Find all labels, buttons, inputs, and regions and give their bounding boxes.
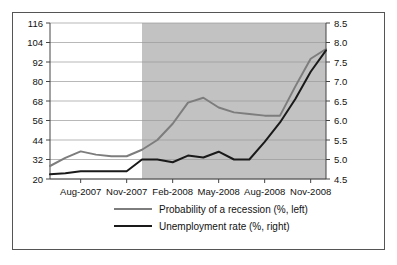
- x-axis-tick-labels: Aug-2007Nov-2007Feb-2008May-2008Aug-2008…: [60, 186, 331, 197]
- left-tick-label: 80: [32, 76, 43, 87]
- left-tick-label: 44: [32, 135, 43, 146]
- left-tick-label: 32: [32, 154, 43, 165]
- left-tick-label: 92: [32, 57, 43, 68]
- left-tick-label: 20: [32, 174, 43, 185]
- left-axis-tick-labels: 20324456688092104116: [27, 18, 43, 185]
- right-tick-label: 5.0: [334, 154, 347, 165]
- recession-probability-unemployment-chart: 20324456688092104116 4.55.05.56.06.57.07…: [13, 13, 384, 249]
- right-axis-tick-labels: 4.55.05.56.06.57.07.58.08.5: [334, 18, 347, 185]
- chart-frame: 20324456688092104116 4.55.05.56.06.57.07…: [12, 12, 385, 250]
- right-tick-label: 7.0: [334, 76, 347, 87]
- legend-label: Probability of a recession (%, left): [159, 204, 308, 215]
- left-tick-label: 104: [27, 37, 43, 48]
- right-tick-label: 8.5: [334, 18, 347, 29]
- right-tick-label: 7.5: [334, 57, 347, 68]
- chart-legend: Probability of a recession (%, left)Unem…: [114, 204, 308, 232]
- left-tick-label: 56: [32, 115, 43, 126]
- x-tick-label: Nov-2007: [106, 186, 147, 197]
- x-tick-label: Feb-2008: [152, 186, 193, 197]
- right-tick-label: 4.5: [334, 174, 347, 185]
- x-tick-label: May-2008: [198, 186, 240, 197]
- left-tick-label: 68: [32, 96, 43, 107]
- x-tick-label: Aug-2007: [60, 186, 101, 197]
- x-tick-label: Nov-2008: [290, 186, 331, 197]
- right-tick-label: 6.0: [334, 115, 347, 126]
- right-tick-label: 8.0: [334, 37, 347, 48]
- left-tick-label: 116: [28, 18, 43, 29]
- legend-label: Unemployment rate (%, right): [159, 221, 290, 232]
- right-tick-label: 5.5: [334, 135, 347, 146]
- x-tick-label: Aug-2008: [244, 186, 285, 197]
- right-tick-label: 6.5: [334, 96, 347, 107]
